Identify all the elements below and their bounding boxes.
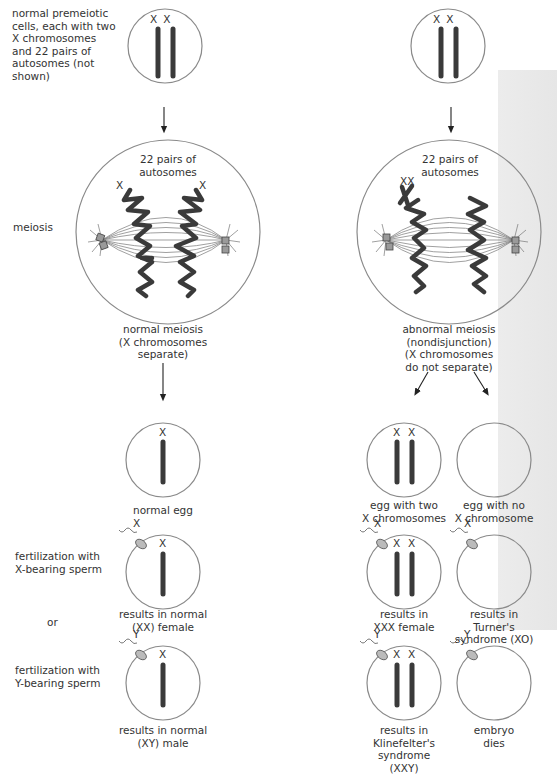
x-label: X [393,426,400,439]
normal-male-caption: results in normal(XY) male [103,724,223,749]
embryo-dies-caption: embryodies [444,724,544,749]
sperm-y-label: Y [464,628,470,641]
x-label: X [408,537,415,550]
x-label: X [393,537,400,550]
abnormal-meiosis-caption: abnormal meiosis(nondisjunction) (X chro… [389,323,509,373]
sperm-y-label: Y [374,628,380,641]
premeiotic-label: normal premeioticcells, each with two X … [12,7,116,82]
meiosis-label: meiosis [13,221,53,234]
x-label: X [199,179,206,192]
normal-egg-caption: normal egg [103,504,223,517]
x-label: X [116,179,123,192]
normal-female-caption: results in normal(XX) female [103,608,223,633]
x-label: X [159,537,166,550]
meiosis-left-title: 22 pairs ofautosomes [118,153,218,178]
sperm-x-label: X [374,517,381,530]
x-label: X [159,426,166,439]
egg-two-x-caption: egg with twoX chromosomes [354,499,454,524]
normal-meiosis-caption: normal meiosis(X chromosomesseparate) [103,323,223,361]
turner-caption: results inTurner'ssyndrome (XO) [444,608,544,646]
xx-label: XX [400,175,414,188]
sperm-icons [119,528,479,662]
x-label: X [408,648,415,661]
x-label: X [159,648,166,661]
x-label: X [408,426,415,439]
x-label: X [393,648,400,661]
sperm-y-label: Y [133,628,139,641]
or-label: or [47,616,58,629]
xxx-female-caption: results inXXX female [354,608,454,633]
fertilization-y-label: fertilization withY-bearing sperm [15,664,100,689]
klinefelter-caption: results inKlinefelter's syndrome(XXY) [354,724,454,774]
x-labels-premeiotic-right: XX [433,13,459,26]
sperm-x-label: X [464,517,471,530]
fertilization-x-label: fertilization withX-bearing sperm [15,550,102,575]
meiosis-right-title: 22 pairs ofautosomes [400,153,500,178]
sperm-x-label: X [133,517,140,530]
x-labels-premeiotic-left: XX [150,13,176,26]
egg-no-x-caption: egg with noX chromosome [444,499,544,524]
